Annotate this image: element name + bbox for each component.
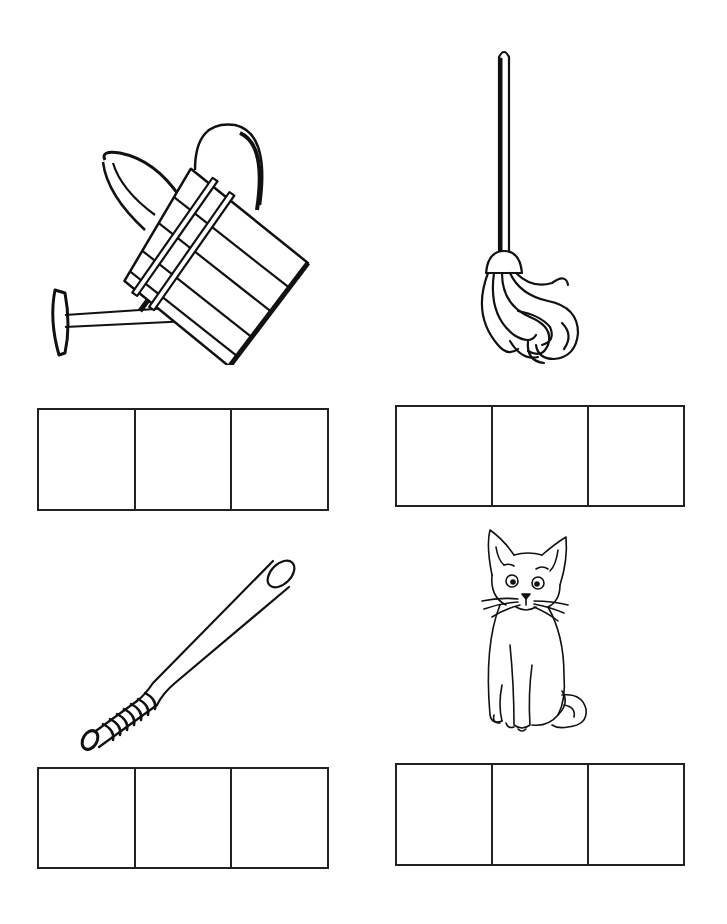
mop-picture: mop	[470, 45, 600, 370]
letter-box-1[interactable]	[397, 765, 493, 864]
letter-box-2[interactable]	[493, 407, 589, 505]
letter-box-2[interactable]	[136, 410, 233, 509]
letter-box-3[interactable]	[232, 769, 327, 867]
watering-can-picture: watering-can	[45, 115, 325, 365]
letter-boxes-baseball-bat	[37, 767, 329, 869]
letter-boxes-watering-can	[37, 408, 329, 511]
letter-box-1[interactable]	[397, 407, 493, 505]
letter-box-1[interactable]	[39, 769, 136, 867]
letter-boxes-mop	[395, 405, 685, 507]
watering-can-icon	[45, 115, 325, 365]
letter-box-2[interactable]	[493, 765, 589, 864]
baseball-bat-picture: baseball-bat	[75, 555, 300, 755]
letter-box-1[interactable]	[39, 410, 136, 509]
baseball-bat-icon	[75, 555, 300, 755]
letter-box-3[interactable]	[589, 765, 683, 864]
letter-box-2[interactable]	[136, 769, 233, 867]
mop-icon	[470, 45, 600, 370]
letter-box-3[interactable]	[232, 410, 327, 509]
letter-boxes-cat	[395, 763, 685, 866]
cat-picture: cat	[478, 525, 593, 740]
cat-icon	[478, 525, 593, 740]
letter-box-3[interactable]	[589, 407, 683, 505]
